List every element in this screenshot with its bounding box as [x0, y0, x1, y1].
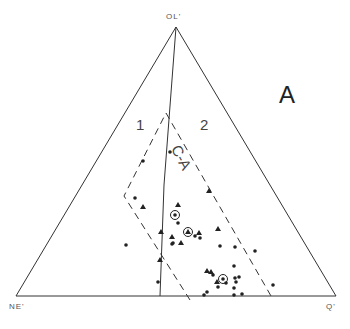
vertex-label-ol: OL' [166, 12, 181, 21]
field-label-1: 1 [136, 116, 144, 133]
triangle-points [140, 188, 221, 284]
vertex-label-q: Q' [326, 302, 336, 311]
ca-envelope [124, 113, 271, 300]
data-points [124, 150, 275, 297]
field-label-2: 2 [200, 116, 208, 133]
panel-label: A [279, 81, 295, 109]
vertex-label-ne: NE' [9, 302, 25, 311]
